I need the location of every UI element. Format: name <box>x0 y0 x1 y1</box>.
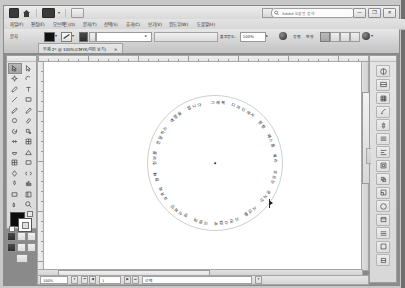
tool-artboard-tool[interactable] <box>8 189 22 200</box>
tool-symbol-sprayer-tool[interactable] <box>8 179 22 190</box>
stroke-weight-caret-icon[interactable]: ▸ <box>145 33 147 38</box>
menu-item-effect[interactable]: 효과(C) <box>126 21 140 27</box>
tool-magic-wand-tool[interactable] <box>8 74 22 85</box>
first-artboard-icon[interactable]: ⏮ <box>81 276 88 284</box>
zoom-caret-icon[interactable]: ▾ <box>71 276 78 284</box>
bridge-icon[interactable] <box>9 8 19 18</box>
brushes-icon[interactable] <box>376 106 390 118</box>
stroke-caret-icon[interactable]: ▾ <box>72 33 74 38</box>
graphic-style-dropdown[interactable] <box>154 32 218 42</box>
tool-slice-tool[interactable] <box>22 189 36 200</box>
change-screen-mode-icon[interactable] <box>16 254 28 263</box>
symbols-icon[interactable] <box>376 119 390 131</box>
restore-button[interactable]: ❐ <box>368 8 381 18</box>
help-search-box[interactable]: Adobe 도움말 검색 <box>271 8 355 18</box>
color-guide-icon[interactable] <box>376 79 390 91</box>
tool-blend-tool[interactable] <box>22 168 36 179</box>
tool-pen-tool[interactable] <box>8 84 22 95</box>
tool-rectangle-tool[interactable] <box>22 95 36 106</box>
menu-item-view[interactable]: 보기(V) <box>148 21 162 27</box>
transparency-icon[interactable] <box>376 187 390 199</box>
prev-artboard-icon[interactable]: ◀ <box>89 276 96 284</box>
stroke-weight-input[interactable] <box>96 32 152 42</box>
vertical-scrollbar[interactable] <box>361 61 369 271</box>
next-artboard-icon[interactable]: ▶ <box>124 276 131 284</box>
stroke-weight-swatch[interactable] <box>79 32 88 42</box>
color-fill-mode-icon[interactable] <box>7 232 16 241</box>
arrange-caret-icon[interactable]: ▾ <box>58 9 60 17</box>
tool-shape-builder-tool[interactable] <box>8 147 22 158</box>
tool-column-graph-tool[interactable] <box>22 179 36 190</box>
stroke-icon[interactable] <box>376 133 390 145</box>
minimize-button[interactable]: — <box>353 8 366 18</box>
tool-paintbrush-tool[interactable] <box>8 105 22 116</box>
tool-pencil-tool[interactable] <box>22 105 36 116</box>
menu-item-type[interactable]: 문자(T) <box>83 21 97 27</box>
menu-item-select[interactable]: 선택(S) <box>104 21 118 27</box>
menu-item-window[interactable]: 윈도우(W) <box>169 21 188 27</box>
toolbox-stroke-swatch[interactable] <box>18 218 32 232</box>
circular-type-artwork[interactable]: 그래픽 디자인에서 원형 패스를 따라 흐르는 문자는 시선을 자연스럽게 이끌… <box>147 95 283 231</box>
menu-item-object[interactable]: 오브젝트(O) <box>53 21 75 27</box>
status-caret-icon[interactable]: ▾ <box>255 276 262 284</box>
align-center-icon[interactable] <box>330 32 340 42</box>
align-icon[interactable] <box>376 146 390 158</box>
tool-scale-tool[interactable] <box>22 126 36 137</box>
last-artboard-icon[interactable]: ⏭ <box>132 276 139 284</box>
align-justify-icon[interactable] <box>350 32 360 42</box>
fill-color-swatch[interactable] <box>44 32 55 42</box>
tool-hand-tool[interactable] <box>8 200 22 211</box>
swap-colors-icon[interactable] <box>27 211 33 217</box>
links-icon[interactable] <box>376 254 390 266</box>
document-canvas[interactable]: 그래픽 디자인에서 원형 패스를 따라 흐르는 문자는 시선을 자연스럽게 이끌… <box>43 61 369 271</box>
tool-zoom-tool[interactable] <box>22 200 36 211</box>
dock-collapse-handle[interactable] <box>366 148 371 164</box>
tool-width-tool[interactable] <box>8 137 22 148</box>
tool-lasso-tool[interactable] <box>22 74 36 85</box>
appearance-icon[interactable] <box>376 200 390 212</box>
close-icon[interactable]: ✕ <box>114 47 117 52</box>
artboard-number-field[interactable]: 1 <box>99 276 121 284</box>
align-left-icon[interactable] <box>320 32 330 42</box>
tool-line-segment-tool[interactable] <box>8 95 22 106</box>
menu-item-help[interactable]: 도움말(H) <box>197 21 215 27</box>
draw-inside-icon[interactable] <box>27 243 36 252</box>
artboards-icon[interactable] <box>376 241 390 253</box>
transform-icon[interactable] <box>376 160 390 172</box>
tool-eyedropper-tool[interactable] <box>8 168 22 179</box>
tool-rotate-tool[interactable] <box>8 126 22 137</box>
stroke-color-swatch[interactable] <box>61 32 72 42</box>
tool-type-tool[interactable] <box>22 84 36 95</box>
tool-eraser-tool[interactable] <box>22 116 36 127</box>
fill-caret-icon[interactable]: ▾ <box>55 33 57 38</box>
draw-normal-icon[interactable] <box>7 243 16 252</box>
align-label[interactable]: 정렬 <box>293 33 300 39</box>
current-tool-field[interactable]: 선택 <box>142 276 252 284</box>
tool-free-transform-tool[interactable] <box>22 137 36 148</box>
opacity-caret-icon[interactable]: ▸ <box>266 33 268 38</box>
graphic-styles-icon[interactable] <box>376 214 390 226</box>
transform-label[interactable]: 변형 <box>306 33 313 39</box>
tool-mesh-tool[interactable] <box>8 158 22 169</box>
gradient-fill-mode-icon[interactable] <box>17 232 26 241</box>
zoom-level-field[interactable]: 100% <box>40 276 68 284</box>
default-colors-icon[interactable] <box>9 226 15 232</box>
home-icon[interactable] <box>22 9 31 18</box>
close-button[interactable]: ✕ <box>383 8 396 18</box>
tool-direct-selection-tool[interactable] <box>22 63 36 74</box>
swatches-icon[interactable] <box>376 92 390 104</box>
tool-perspective-grid-tool[interactable] <box>22 147 36 158</box>
opacity-mode-caret-icon[interactable]: ▾ <box>371 33 373 38</box>
opacity-input[interactable]: 100% <box>240 32 266 42</box>
tool-selection-tool[interactable] <box>8 63 22 74</box>
menu-item-file[interactable]: 파일(F) <box>10 21 24 27</box>
none-fill-mode-icon[interactable] <box>27 232 36 241</box>
tool-gradient-tool[interactable] <box>22 158 36 169</box>
align-right-icon[interactable] <box>340 32 350 42</box>
opacity-preview-icon[interactable] <box>279 32 287 40</box>
draw-behind-icon[interactable] <box>17 243 26 252</box>
stroke-weight-stepper[interactable] <box>89 32 96 42</box>
menu-item-edit[interactable]: 편집(E) <box>31 21 45 27</box>
arrange-documents-icon[interactable] <box>42 8 55 18</box>
workspace-switcher-icon[interactable] <box>71 8 84 18</box>
